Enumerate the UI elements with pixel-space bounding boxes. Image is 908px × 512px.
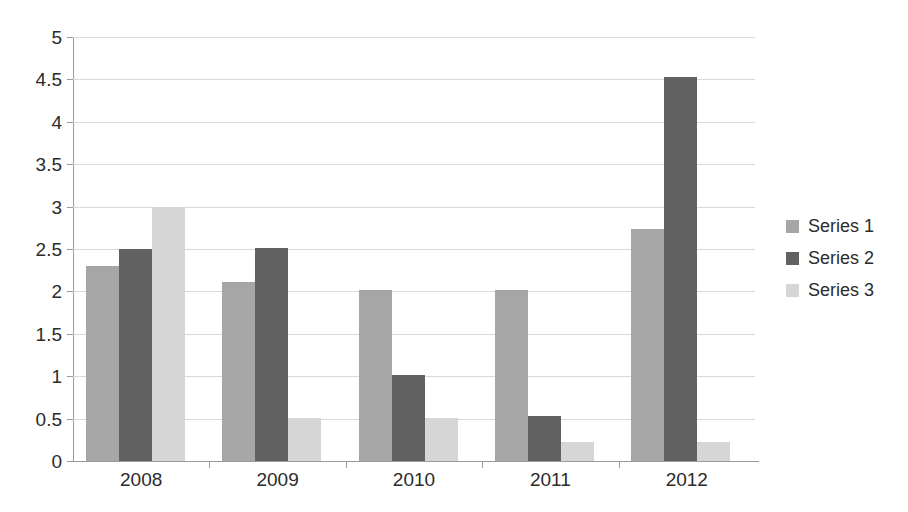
y-axis-tick-label: 0 — [51, 452, 62, 471]
y-axis-tick-label: 2.5 — [36, 240, 62, 259]
y-axis-labels: 00.511.522.533.544.55 — [0, 0, 62, 512]
x-axis-tick — [346, 461, 347, 468]
bar-2010-series-1 — [359, 290, 392, 461]
bar-2011-series-1 — [495, 290, 528, 461]
bar-2010-series-2 — [392, 375, 425, 461]
gridline — [73, 122, 755, 123]
y-axis-tick-label: 0.5 — [36, 410, 62, 429]
gridline — [73, 164, 755, 165]
bar-2009-series-3 — [288, 418, 321, 461]
y-axis-tick-label: 4 — [51, 113, 62, 132]
y-axis-tick-label: 5 — [51, 28, 62, 47]
bar-2012-series-1 — [631, 229, 664, 461]
legend-item-series-3[interactable]: Series 3 — [786, 274, 874, 306]
bar-2011-series-3 — [561, 442, 594, 461]
x-axis-tick-label: 2008 — [73, 470, 209, 489]
bar-chart: 00.511.522.533.544.55 200820092010201120… — [0, 0, 908, 512]
y-axis-tick-label: 3 — [51, 198, 62, 217]
x-axis-tick-label: 2011 — [482, 470, 618, 489]
gridline — [73, 79, 755, 80]
legend-swatch-icon-series-1 — [786, 220, 799, 233]
y-axis-tick-label: 4.5 — [36, 70, 62, 89]
y-axis-tick-label: 3.5 — [36, 155, 62, 174]
legend-label-series-3: Series 3 — [808, 280, 874, 301]
y-axis-tick-label: 1.5 — [36, 325, 62, 344]
legend-swatch-icon-series-2 — [786, 252, 799, 265]
bar-2011-series-2 — [528, 416, 561, 461]
x-axis-tick — [209, 461, 210, 468]
bar-2012-series-2 — [664, 77, 697, 461]
legend-item-series-1[interactable]: Series 1 — [786, 210, 874, 242]
gridline — [73, 37, 755, 38]
y-axis-tick-label: 1 — [51, 367, 62, 386]
x-axis-line — [67, 461, 759, 462]
bar-2009-series-2 — [255, 248, 288, 461]
plot-area — [73, 37, 755, 461]
x-axis-tick — [482, 461, 483, 468]
y-axis-tick-label: 2 — [51, 282, 62, 301]
chart-legend: Series 1 Series 2 Series 3 — [786, 210, 874, 306]
legend-label-series-1: Series 1 — [808, 216, 874, 237]
legend-swatch-icon-series-3 — [786, 284, 799, 297]
legend-label-series-2: Series 2 — [808, 248, 874, 269]
x-axis-tick-label: 2010 — [346, 470, 482, 489]
bar-2008-series-2 — [119, 249, 152, 461]
bar-2012-series-3 — [697, 442, 730, 461]
bar-2009-series-1 — [222, 282, 255, 461]
x-axis-tick — [619, 461, 620, 468]
x-axis-tick-label: 2009 — [209, 470, 345, 489]
bar-2010-series-3 — [425, 418, 458, 461]
legend-item-series-2[interactable]: Series 2 — [786, 242, 874, 274]
bar-2008-series-3 — [152, 207, 185, 461]
x-axis-tick-label: 2012 — [619, 470, 755, 489]
bar-2008-series-1 — [86, 266, 119, 461]
